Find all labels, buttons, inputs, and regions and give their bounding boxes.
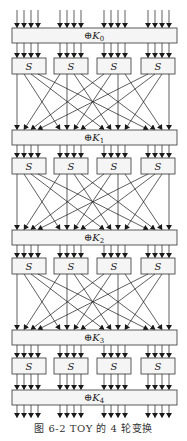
sbox-label: S — [111, 361, 118, 372]
sbox-label: S — [155, 61, 162, 72]
sbox-label: S — [68, 261, 75, 272]
sbox-label: S — [68, 361, 75, 372]
sbox-label: S — [26, 361, 33, 372]
sbox-label: S — [68, 161, 75, 172]
sbox-label: S — [26, 161, 33, 172]
sbox-label: S — [26, 261, 33, 272]
sbox-label: S — [111, 161, 118, 172]
sbox-label: S — [155, 361, 162, 372]
sbox-label: S — [111, 261, 118, 272]
sbox-label: S — [68, 61, 75, 72]
sbox-label: S — [26, 61, 33, 72]
sbox-label: S — [155, 261, 162, 272]
sbox-label: S — [111, 61, 118, 72]
figure-caption: 图 6-2 TOY 的 4 轮变换 — [0, 420, 187, 435]
toy-cipher-diagram: ⊕K0SSSS⊕K1SSSS⊕K2SSSS⊕K3SSSS⊕K4 — [0, 0, 187, 441]
sbox-label: S — [155, 161, 162, 172]
